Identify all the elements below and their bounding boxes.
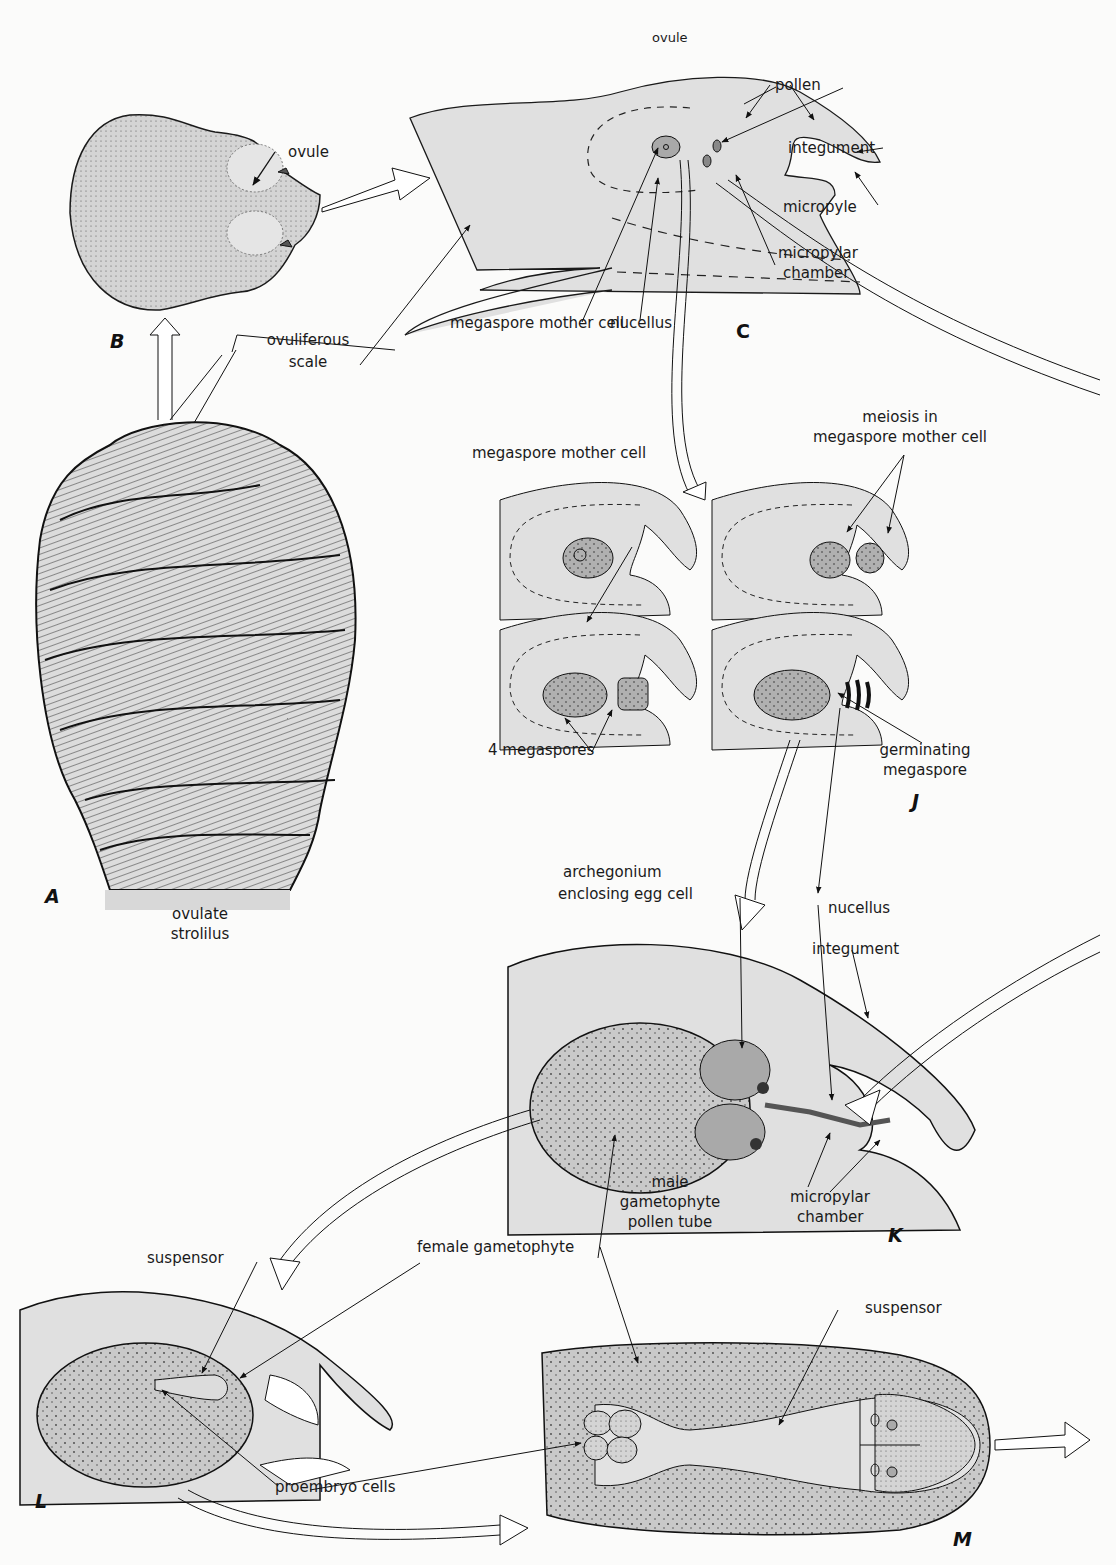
label-k-micropylar-2: chamber: [797, 1207, 863, 1227]
label-ovuliferous-scale-1: ovuliferous: [253, 330, 363, 350]
label-b-ovule: ovule: [288, 142, 329, 162]
panel-letter-a: A: [45, 885, 60, 907]
label-ovuliferous-scale-2: scale: [253, 352, 363, 372]
panel-m-embryo-section: [310, 1247, 1090, 1535]
j-stage-1: [500, 483, 697, 621]
panel-letter-m: M: [953, 1528, 972, 1550]
label-c-integument: integument: [788, 138, 875, 158]
panel-letter-k: K: [888, 1224, 903, 1246]
label-l-female-gametophyte: female gametophyte: [417, 1237, 574, 1257]
label-c-ovule: ovule: [652, 28, 688, 48]
panel-letter-l: L: [35, 1490, 47, 1512]
arrow-j-to-k: [745, 740, 800, 900]
label-j-four-megaspores: 4 megaspores: [488, 740, 594, 760]
label-k-male-2: gametophyte: [610, 1192, 730, 1212]
label-j-megaspore-mother-cell: megaspore mother cell: [472, 443, 646, 463]
label-c-micropylar-chamber-1: micropylar: [778, 243, 858, 263]
j-stage-4: [712, 613, 909, 751]
arrow-a-to-b: [150, 318, 180, 420]
label-a-strobilus: strolilus: [130, 924, 270, 944]
label-c-megaspore-mother-cell: megaspore mother cell: [450, 313, 624, 333]
j-stage-2: [712, 483, 909, 621]
label-c-pollen: pollen: [775, 75, 821, 95]
panel-letter-c: C: [736, 320, 750, 342]
life-cycle-diagram: [0, 0, 1116, 1565]
label-k-nucellus: nucellus: [828, 898, 890, 918]
label-k-micropylar-1: micropylar: [790, 1187, 870, 1207]
label-l-suspensor: suspensor: [147, 1248, 224, 1268]
label-m-suspensor: suspensor: [865, 1298, 942, 1318]
label-k-integument: integument: [812, 939, 899, 959]
label-j-meiosis-2: megaspore mother cell: [770, 427, 1030, 447]
label-c-nucellus: nucellus: [610, 313, 672, 333]
label-j-germinating-1: germinating: [855, 740, 995, 760]
label-j-germinating-2: megaspore: [855, 760, 995, 780]
label-j-meiosis-1: meiosis in: [770, 407, 1030, 427]
label-c-micropylar-chamber-2: chamber: [783, 263, 849, 283]
panel-letter-b: B: [110, 330, 124, 352]
panel-letter-j: J: [912, 790, 919, 812]
panel-a-cone-drawing: [36, 422, 355, 910]
panel-l-proembryo-section: [20, 1262, 420, 1505]
label-k-archegonium-2: enclosing egg cell: [558, 884, 693, 904]
label-k-archegonium-1: archegonium: [563, 862, 662, 882]
label-a-ovulate: ovulate: [130, 904, 270, 924]
panel-b-scale-drawing: [70, 115, 320, 310]
label-k-male-1: male: [620, 1172, 720, 1192]
arrow-b-to-c: [322, 168, 430, 212]
j-stage-3: [500, 613, 697, 751]
panel-j-meiosis-series: [500, 455, 922, 752]
label-k-male-3: pollen tube: [610, 1212, 730, 1232]
label-l-proembryo-cells: proembryo cells: [275, 1477, 396, 1497]
label-c-micropyle: micropyle: [783, 197, 857, 217]
